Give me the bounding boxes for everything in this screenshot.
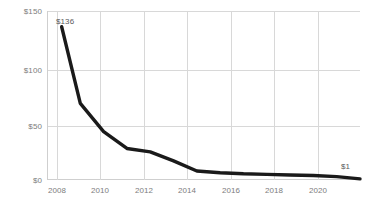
plot-area — [47, 11, 360, 180]
gridline-vertical — [100, 11, 101, 180]
gridline-vertical — [274, 11, 275, 180]
x-axis-tick-label: 2008 — [37, 186, 77, 195]
x-axis-tick-label: 2020 — [298, 186, 338, 195]
y-axis-tick-label: $150 — [2, 7, 42, 16]
gridline-vertical — [231, 11, 232, 180]
x-axis-tick-label: 2016 — [211, 186, 251, 195]
x-axis-tick-label: 2012 — [124, 186, 164, 195]
x-axis-tick-label: 2018 — [254, 186, 294, 195]
gridline-horizontal — [47, 11, 360, 12]
annotation-end-value: $1 — [341, 162, 350, 171]
y-axis-tick-label: $0 — [2, 176, 42, 185]
line-chart: $150 $100 $50 $0 2008 2010 2012 2014 201… — [0, 0, 372, 213]
gridline-vertical — [187, 11, 188, 180]
gridline-vertical — [318, 11, 319, 180]
gridline-vertical — [144, 11, 145, 180]
gridline-vertical — [57, 11, 58, 180]
x-axis-line — [47, 179, 360, 180]
y-axis-tick-label: $50 — [2, 122, 42, 131]
gridline-horizontal — [47, 70, 360, 71]
x-axis-tick-label: 2014 — [167, 186, 207, 195]
gridline-horizontal — [47, 126, 360, 127]
y-axis-tick-label: $100 — [2, 66, 42, 75]
annotation-start-value: $136 — [56, 17, 74, 26]
x-axis-tick-label: 2010 — [80, 186, 120, 195]
y-axis-line — [47, 11, 48, 180]
